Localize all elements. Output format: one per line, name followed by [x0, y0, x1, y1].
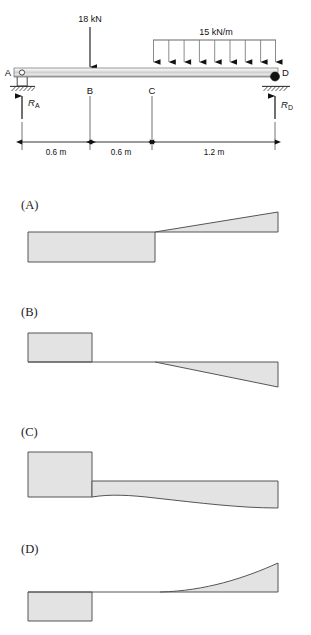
option-d-segment-curve [160, 563, 278, 592]
reaction-ra: RA [22, 96, 40, 119]
ground-hatch-d [264, 87, 288, 91]
beam-body [14, 68, 278, 77]
option-c-segment-block [28, 452, 92, 497]
option-a-segment-ramp [155, 212, 278, 232]
distributed-load-15knm: 15 kN/m [153, 27, 276, 62]
reaction-rd: RD [275, 96, 293, 119]
beam-shear-diagram-figure: 18 kN 15 kN/m [0, 0, 311, 635]
node-label-b: B [87, 85, 93, 96]
figure-canvas: 18 kN 15 kN/m [0, 0, 311, 635]
beam-diagram-group: 18 kN 15 kN/m [5, 14, 293, 157]
option-b-segment-block [28, 333, 92, 362]
option-c-label: (C) [21, 425, 38, 439]
point-load-label: 18 kN [78, 14, 102, 24]
ground-hatch-a [12, 87, 35, 91]
pin-hinge-icon [19, 70, 24, 75]
option-a[interactable]: (A) [21, 198, 278, 262]
option-d[interactable]: (D) [21, 542, 278, 621]
roller-icon [271, 72, 280, 81]
option-b-label: (B) [21, 305, 38, 319]
reaction-rd-label: RD [281, 99, 293, 111]
option-d-segment-block [28, 592, 92, 621]
option-d-label: (D) [21, 542, 38, 556]
option-a-label: (A) [21, 198, 38, 212]
distributed-load-label: 15 kN/m [199, 27, 233, 37]
dimension-label-bc: 0.6 m [111, 148, 132, 157]
pin-bracket [17, 77, 27, 86]
option-c-segment-curve [92, 481, 278, 508]
dimension-label-ab: 0.6 m [46, 148, 67, 157]
option-a-segment-block [28, 232, 155, 262]
point-load-18kn: 18 kN [78, 14, 102, 67]
option-b[interactable]: (B) [21, 305, 278, 387]
node-label-c: C [149, 85, 156, 96]
option-c[interactable]: (C) [21, 425, 278, 508]
node-label-d: D [282, 67, 289, 78]
option-b-segment-ramp [155, 362, 278, 387]
distributed-load-arrows [154, 40, 276, 62]
node-label-a: A [5, 67, 12, 78]
reaction-ra-label: RA [28, 97, 40, 109]
dimension-chain: 0.6 m 0.6 m 1.2 m [22, 142, 275, 157]
dimension-label-cd: 1.2 m [204, 148, 225, 157]
